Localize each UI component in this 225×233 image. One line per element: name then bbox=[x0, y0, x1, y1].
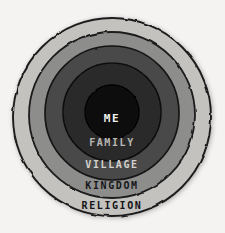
label-family: FAMILY bbox=[89, 137, 135, 148]
label-me: ME bbox=[104, 112, 120, 125]
label-religion: RELIGION bbox=[82, 200, 143, 211]
concentric-circles-diagram: ME FAMILY VILLAGE KINGDOM RELIGION bbox=[0, 0, 225, 233]
label-village: VILLAGE bbox=[85, 159, 138, 170]
concentric-circles-canvas: ME FAMILY VILLAGE KINGDOM RELIGION bbox=[0, 0, 225, 233]
label-kingdom: KINGDOM bbox=[85, 180, 138, 191]
